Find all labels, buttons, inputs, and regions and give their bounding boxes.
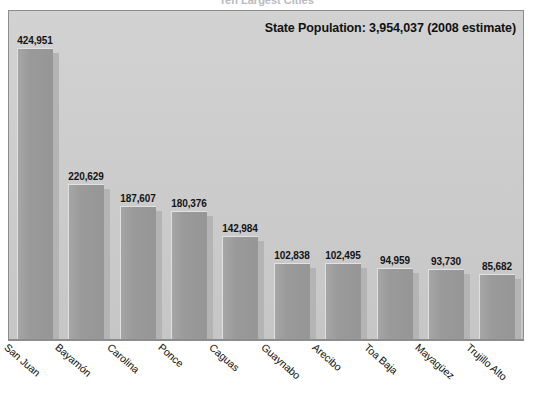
bar-group[interactable]: 85,682 [479,274,515,339]
bar-shadow [207,216,213,339]
bar-shadow [310,268,316,339]
bar-value-label: 94,959 [380,255,410,266]
x-axis-label-mayag-ez: Mayagüez [413,341,457,381]
bar-shadow [413,273,419,339]
bar-group[interactable]: 424,951 [17,48,53,339]
bar-shadow [53,53,59,339]
x-axis-label-trujillo-alto: Trujillo Alto [464,341,509,383]
bar-value-label: 93,730 [431,256,461,267]
plot-area: 424,951220,629187,607180,376142,984102,8… [9,11,523,339]
x-axis-label-toa-baja: Toa Baja [362,341,400,376]
chart-plot-frame: State Population: 3,954,037 (2008 estima… [8,10,524,340]
bar-shadow [361,268,367,339]
bar-shadow [464,274,470,339]
bar-group[interactable]: 180,376 [171,211,207,339]
bar-value-label: 187,607 [120,193,155,204]
bar-value-label: 85,682 [482,261,512,272]
bar[interactable] [428,269,464,339]
bar-shadow [515,279,521,339]
bar-shadow [258,241,264,339]
bar-value-label: 220,629 [68,171,103,182]
x-axis-label-bayam-n: Bayamón [53,341,94,379]
bar[interactable] [274,263,310,339]
bar-value-label: 102,838 [274,250,309,261]
bar-group[interactable]: 142,984 [222,236,258,339]
x-axis-category-labels: San JuanBayamónCarolinaPonceCaguasGuayna… [0,341,533,416]
bar[interactable] [17,48,53,339]
x-axis-label-carolina: Carolina [105,341,142,375]
bar-value-label: 142,984 [222,223,257,234]
bar-value-label: 424,951 [17,35,52,46]
x-axis-label-arecibo: Arecibo [310,341,344,373]
x-axis-label-caguas: Caguas [207,341,242,373]
bar-value-label: 102,495 [325,250,360,261]
chart-title: Ten Largest Cities [0,0,533,9]
bar[interactable] [222,236,258,339]
bar[interactable] [325,263,361,339]
bar[interactable] [479,274,515,339]
bar[interactable] [120,206,156,339]
x-axis-label-san-juan: San Juan [2,341,43,379]
bar-group[interactable]: 102,495 [325,263,361,339]
bar[interactable] [171,211,207,339]
bar-group[interactable]: 94,959 [377,268,413,339]
bar-shadow [104,189,110,339]
bar-shadow [156,211,162,339]
bar-group[interactable]: 102,838 [274,263,310,339]
bar-group[interactable]: 93,730 [428,269,464,339]
x-axis-label-guaynabo: Guaynabo [259,341,303,381]
bar-group[interactable]: 187,607 [120,206,156,339]
bar[interactable] [68,184,104,339]
bar[interactable] [377,268,413,339]
x-axis-label-ponce: Ponce [156,341,186,369]
chart-title-text: Ten Largest Cities [0,0,533,6]
bar-group[interactable]: 220,629 [68,184,104,339]
bar-value-label: 180,376 [171,198,206,209]
